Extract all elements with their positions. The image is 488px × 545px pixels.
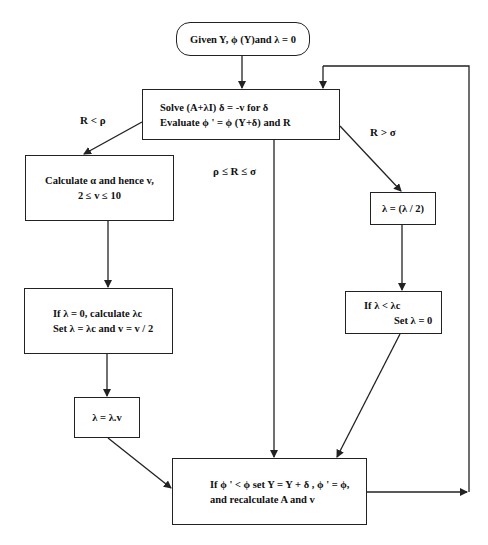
lambda-zero-node: If λ = 0, calculate λc Set λ = λc and v …: [24, 288, 173, 354]
update-node: If ϕ ' < ϕ set Y = Y + δ , ϕ ' = ϕ, and …: [172, 458, 367, 525]
lambda-times-node: λ = λ.v: [74, 397, 140, 438]
lambda-less-text-line-2: Set λ = 0: [364, 313, 441, 328]
arrow-lambda-times-to-update: [108, 438, 171, 488]
lambda-zero-text-line-2: Set λ = λc and v = v / 2: [53, 321, 172, 336]
edge-label-r-less-rho: R < ρ: [80, 114, 106, 126]
lambda-zero-text-line-1: If λ = 0, calculate λc: [53, 306, 172, 321]
lambda-less-node: If λ < λc Set λ = 0: [345, 291, 442, 334]
solve-node: Solve (A+λI) δ = -v for δ Evaluate ϕ ' =…: [142, 89, 340, 140]
lambda-less-text-line-1: If λ < λc: [364, 298, 441, 313]
update-text-line-2: and recalculate A and v: [210, 492, 366, 507]
start-text: Given Y, ϕ (Y)and λ = 0: [190, 32, 296, 47]
update-text-line-1: If ϕ ' < ϕ set Y = Y + δ , ϕ ' = ϕ,: [210, 477, 366, 492]
calc-alpha-node: Calculate α and hence v, 2 ≤ v ≤ 10: [25, 155, 174, 221]
arrow-lambda-less-to-update: [337, 334, 400, 457]
edge-label-r-greater-sigma: R > σ: [370, 126, 396, 138]
calc-alpha-text-line-2: 2 ≤ v ≤ 10: [78, 188, 121, 203]
start-node: Given Y, ϕ (Y)and λ = 0: [176, 22, 310, 56]
edge-label-rho-le-r-le-sigma: ρ ≤ R ≤ σ: [213, 165, 256, 177]
solve-text-line-2: Evaluate ϕ ' = ϕ (Y+δ) and R: [160, 115, 339, 130]
solve-text-line-1: Solve (A+λI) δ = -v for δ: [160, 100, 339, 115]
arrow-solve-to-calc-alpha: [84, 122, 142, 154]
loop-back-line: [323, 66, 469, 492]
lambda-times-text: λ = λ.v: [92, 410, 121, 425]
halve-lambda-node: λ = (λ / 2): [370, 192, 436, 225]
calc-alpha-text-line-1: Calculate α and hence v,: [45, 173, 154, 188]
halve-lambda-text: λ = (λ / 2): [382, 201, 424, 216]
